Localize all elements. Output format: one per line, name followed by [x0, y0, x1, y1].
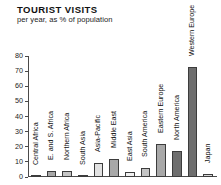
plot-area: 01020304050607080 Central AfricaE. and S… [28, 56, 216, 177]
y-tick-label: 80 [15, 51, 23, 60]
bar[interactable] [141, 168, 151, 177]
bar-label: Central Africa [32, 122, 40, 165]
bar-label: South America [141, 111, 149, 157]
bar-group[interactable]: Asia-Pacific [94, 56, 104, 177]
bar-label: Eastern Europe [157, 83, 165, 132]
bar-label: Middle East [110, 111, 118, 148]
bar-label: E. and S. Africa [47, 111, 55, 160]
bar-group[interactable]: E. and S. Africa [47, 56, 57, 177]
bar[interactable] [78, 175, 88, 177]
y-tick-label: 10 [15, 157, 23, 166]
y-tick-label: 0 [19, 172, 23, 181]
bar-group[interactable]: South America [141, 56, 151, 177]
bar[interactable] [156, 144, 166, 177]
bar-group[interactable]: East Asia [125, 56, 135, 177]
y-tick-label: 30 [15, 127, 23, 136]
chart-subtitle: per year, as % of population [17, 15, 113, 24]
bar-label: Northern Africa [63, 113, 71, 160]
bar-label: Western Europe [188, 4, 196, 55]
chart-title: TOURIST VISITS [17, 4, 98, 15]
bar[interactable] [109, 159, 119, 177]
bar-label: Asia-Pacific [94, 115, 102, 152]
bar-label: Japan [204, 144, 212, 163]
bar-group[interactable]: North America [172, 56, 182, 177]
bar[interactable] [188, 67, 198, 177]
y-tick-label: 50 [15, 96, 23, 105]
bar-group[interactable]: Northern Africa [62, 56, 72, 177]
bar[interactable] [94, 163, 104, 177]
bar-label: South Asia [79, 131, 87, 165]
bar-group[interactable]: Japan [203, 56, 213, 177]
bar[interactable] [31, 175, 41, 177]
bar[interactable] [125, 172, 135, 177]
bar[interactable] [47, 171, 57, 177]
bar[interactable] [62, 171, 72, 177]
bar-group[interactable]: Middle East [109, 56, 119, 177]
bar-group[interactable]: South Asia [78, 56, 88, 177]
bar-group[interactable]: Central Africa [31, 56, 41, 177]
bar-label: North America [173, 95, 181, 140]
y-tick-label: 70 [15, 66, 23, 75]
bar-group[interactable]: Western Europe [188, 56, 198, 177]
tourist-visits-chart: TOURIST VISITS per year, as % of populat… [0, 0, 221, 185]
y-tick-label: 20 [15, 142, 23, 151]
bar[interactable] [203, 174, 213, 177]
bar-group[interactable]: Eastern Europe [156, 56, 166, 177]
y-tick-label: 40 [15, 112, 23, 121]
bar-series: Central AfricaE. and S. AfricaNorthern A… [28, 56, 216, 177]
bar-label: East Asia [126, 132, 134, 162]
bar[interactable] [172, 151, 182, 177]
y-tick-label: 60 [15, 81, 23, 90]
